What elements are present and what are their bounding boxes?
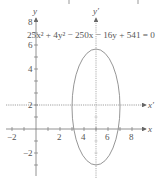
equation-label: 25x² + 4y² − 250x − 16y + 541 = 0 (27, 30, 155, 40)
x-tick-label: 6 (105, 132, 110, 142)
x-tick-label: 4 (81, 132, 86, 142)
ellipse-diagram: y y′ x x′ 25x² + 4y² − 250x − 16y + 541 … (0, 0, 158, 180)
y-tick-label: 4 (28, 64, 33, 74)
y-axis-label: y (32, 6, 37, 16)
x-axis-label: x (147, 124, 152, 134)
y-tick-label: 8 (28, 17, 33, 27)
x-tick-label: −2 (7, 132, 17, 142)
y-tick-label: −2 (23, 148, 33, 158)
x-tick-label: 8 (129, 132, 134, 142)
x-tick-label: 2 (57, 132, 62, 142)
y-tick-label: 6 (28, 40, 33, 50)
y-tick-label: 2 (28, 100, 33, 110)
x-prime-axis-label: x′ (147, 100, 155, 110)
y-prime-axis-label: y′ (92, 6, 100, 16)
